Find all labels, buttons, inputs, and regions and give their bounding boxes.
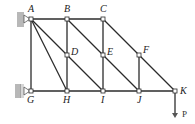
wall-a (17, 12, 24, 27)
joint-g (29, 89, 33, 93)
truss-diagram: P ABCDEFGHIJK (0, 0, 195, 124)
joint-h (65, 89, 69, 93)
node-label-d: D (70, 46, 79, 57)
node-label-g: G (27, 94, 34, 105)
joint-i (101, 89, 105, 93)
node-labels: ABCDEFGHIJK (27, 3, 188, 105)
node-label-i: I (100, 94, 105, 105)
joint-a (29, 17, 33, 21)
node-label-j: J (137, 94, 142, 105)
joint-c (101, 17, 105, 21)
member-ej (103, 55, 139, 91)
joint-k (173, 89, 177, 93)
support-a-pin (17, 12, 30, 27)
node-label-k: K (179, 85, 188, 96)
joint-j (137, 89, 141, 93)
wall-g (15, 84, 21, 98)
joint-f (137, 53, 141, 57)
member-fk (139, 55, 175, 91)
node-label-b: B (64, 3, 70, 14)
joint-e (101, 53, 105, 57)
joint-b (65, 17, 69, 21)
member-ah (31, 19, 67, 91)
joint-d (65, 53, 69, 57)
node-label-f: F (142, 44, 150, 55)
load-arrow: P (172, 93, 187, 119)
member-di (67, 55, 103, 91)
node-label-c: C (100, 3, 107, 14)
node-label-h: H (62, 94, 71, 105)
member-ad (31, 19, 67, 55)
arrow-down-icon (172, 113, 178, 118)
node-label-a: A (27, 3, 35, 14)
load-label: P (182, 109, 187, 119)
node-label-e: E (106, 46, 113, 57)
